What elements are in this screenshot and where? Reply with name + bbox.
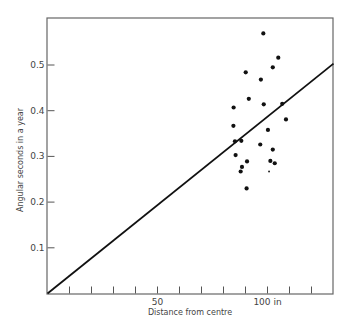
data-point: [245, 159, 249, 163]
data-point: [245, 186, 249, 190]
data-point: [233, 139, 237, 143]
y-tick-label: 0.1: [30, 243, 44, 253]
data-point: [284, 117, 288, 121]
data-point: [268, 159, 272, 163]
data-point: [247, 97, 251, 101]
plot-frame: [47, 18, 333, 294]
y-tick-label: 0.4: [30, 106, 45, 116]
y-tick-label: 0.5: [30, 60, 44, 70]
y-tick-label: 0.2: [30, 197, 44, 207]
data-point: [266, 128, 270, 132]
y-tick-label: 0.3: [30, 151, 44, 161]
chart: 50100 in 0.10.20.30.40.5 Distance from c…: [0, 0, 350, 327]
data-point: [239, 169, 243, 173]
y-axis-ticks: 0.10.20.30.40.5: [30, 60, 54, 253]
x-axis-ticks: 50100 in: [70, 287, 312, 307]
data-point: [271, 65, 275, 69]
data-point: [258, 142, 262, 146]
x-axis-label: Distance from centre: [148, 308, 232, 317]
data-point: [239, 139, 243, 143]
data-point: [259, 78, 263, 82]
scatter-points: [231, 31, 288, 190]
data-point: [271, 147, 275, 151]
data-point: [234, 153, 238, 157]
y-axis-label: Angular seconds in a year: [16, 107, 25, 212]
data-point: [261, 31, 265, 35]
data-point: [240, 165, 244, 169]
fit-line: [48, 64, 334, 294]
x-tick-label: 100 in: [253, 297, 281, 307]
data-point: [244, 70, 248, 74]
x-tick-label: 50: [152, 297, 164, 307]
data-point: [231, 124, 235, 128]
data-point: [268, 171, 270, 173]
data-point: [262, 102, 266, 106]
data-point: [280, 102, 284, 106]
data-point: [273, 161, 277, 165]
data-point: [232, 105, 236, 109]
data-point: [276, 56, 280, 60]
